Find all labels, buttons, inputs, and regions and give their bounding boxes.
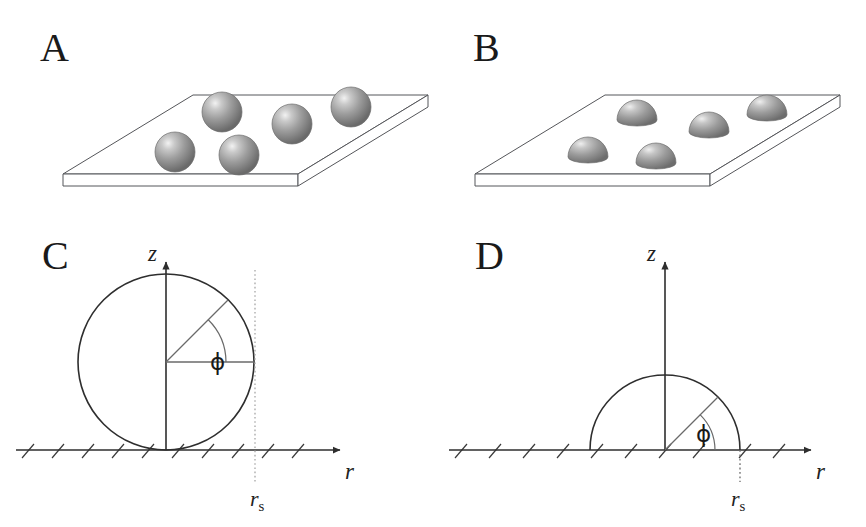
sphere-particle bbox=[219, 135, 259, 175]
plate-front-edge bbox=[475, 174, 710, 186]
panel-letter-a: A bbox=[40, 28, 69, 68]
panel-letter-c: C bbox=[42, 236, 69, 276]
sphere-particle bbox=[202, 92, 242, 132]
r-axis-label: r bbox=[816, 460, 825, 483]
surface-hatching bbox=[455, 444, 785, 458]
sphere-particle bbox=[155, 132, 195, 172]
panel-letter-b: B bbox=[473, 28, 500, 68]
sphere-particle bbox=[331, 87, 371, 127]
z-axis-label: z bbox=[148, 242, 157, 265]
panel-b: B bbox=[433, 0, 866, 220]
angle-phi-label: ϕ bbox=[696, 423, 711, 446]
angle-phi-label: ϕ bbox=[210, 351, 225, 374]
rs-base: r bbox=[731, 486, 740, 511]
panel-a: A bbox=[0, 0, 433, 220]
rs-marker-label: rs bbox=[250, 488, 264, 514]
rs-base: r bbox=[250, 486, 259, 511]
rs-sub: s bbox=[740, 498, 746, 514]
sphere-particle bbox=[272, 104, 312, 144]
figure-root: A bbox=[0, 0, 866, 527]
panel-c: C z r ϕ rs bbox=[0, 220, 433, 527]
panel-letter-d: D bbox=[475, 236, 504, 276]
surface-hatching bbox=[22, 444, 304, 458]
z-axis-label: z bbox=[647, 242, 656, 265]
panel-d: D z r ϕ rs bbox=[433, 220, 866, 527]
r-axis-label: r bbox=[345, 460, 354, 483]
plate-front-edge bbox=[63, 174, 298, 186]
rs-sub: s bbox=[259, 498, 265, 514]
rs-marker-label: rs bbox=[731, 488, 745, 514]
